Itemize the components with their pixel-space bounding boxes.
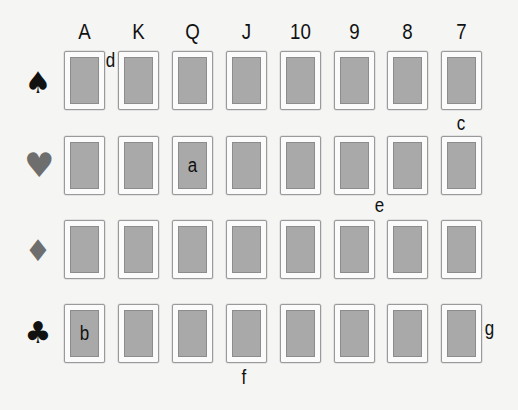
card-hearts-K[interactable] (118, 136, 159, 195)
card-hearts-J[interactable] (226, 136, 267, 195)
card-diamonds-A[interactable] (64, 220, 105, 279)
card-spades-A[interactable] (64, 51, 105, 110)
card-back (340, 57, 369, 104)
card-spades-10[interactable] (280, 51, 321, 110)
card-back (286, 57, 315, 104)
marker-e: e (375, 195, 384, 215)
card-back (393, 57, 422, 104)
column-header-eight: 8 (390, 18, 425, 46)
card-diamonds-7[interactable] (441, 220, 482, 279)
card-back (286, 142, 315, 189)
card-spades-K[interactable] (118, 51, 159, 110)
card-spades-7[interactable] (441, 51, 482, 110)
card-back (70, 57, 99, 104)
card-back (340, 142, 369, 189)
card-back (178, 310, 207, 357)
card-back (286, 226, 315, 273)
card-back (124, 310, 153, 357)
diamond-icon: ♦ (24, 236, 52, 266)
card-hearts-Q[interactable]: a (172, 136, 213, 195)
card-clubs-10[interactable] (280, 304, 321, 363)
card-back (124, 57, 153, 104)
card-clubs-8[interactable] (387, 304, 428, 363)
column-header-ten: 10 (283, 18, 318, 46)
card-diamonds-10[interactable] (280, 220, 321, 279)
card-back (447, 310, 476, 357)
card-back (232, 57, 261, 104)
marker-g: g (485, 318, 494, 338)
card-spades-8[interactable] (387, 51, 428, 110)
card-back (178, 57, 207, 104)
card-back (447, 57, 476, 104)
card-back (393, 310, 422, 357)
card-back (447, 142, 476, 189)
column-header-seven: 7 (444, 18, 479, 46)
card-clubs-7[interactable] (441, 304, 482, 363)
marker-f: f (241, 367, 246, 387)
heart-icon: ♥ (24, 150, 52, 180)
card-back: b (70, 310, 99, 357)
column-header-queen: Q (175, 18, 210, 46)
card-hearts-8[interactable] (387, 136, 428, 195)
card-hearts-10[interactable] (280, 136, 321, 195)
card-back (232, 142, 261, 189)
card-back (232, 310, 261, 357)
card-back (124, 142, 153, 189)
card-label-b: b (80, 322, 89, 345)
card-back (340, 226, 369, 273)
card-hearts-9[interactable] (334, 136, 375, 195)
spade-icon: ♠ (24, 68, 52, 98)
card-clubs-A[interactable]: b (64, 304, 105, 363)
card-clubs-J[interactable] (226, 304, 267, 363)
card-clubs-K[interactable] (118, 304, 159, 363)
card-hearts-7[interactable] (441, 136, 482, 195)
column-header-jack: J (229, 18, 264, 46)
column-header-king: K (121, 18, 156, 46)
card-hearts-A[interactable] (64, 136, 105, 195)
card-back (124, 226, 153, 273)
card-diamonds-9[interactable] (334, 220, 375, 279)
card-diamonds-8[interactable] (387, 220, 428, 279)
card-back (393, 226, 422, 273)
club-icon: ♣ (24, 318, 52, 348)
card-back (232, 226, 261, 273)
card-clubs-9[interactable] (334, 304, 375, 363)
card-back (70, 226, 99, 273)
card-back (286, 310, 315, 357)
card-back (70, 142, 99, 189)
card-back (178, 226, 207, 273)
column-header-ace: A (67, 18, 102, 46)
card-label-a: a (188, 154, 197, 177)
card-back (447, 226, 476, 273)
card-diamonds-Q[interactable] (172, 220, 213, 279)
card-back (393, 142, 422, 189)
card-spades-J[interactable] (226, 51, 267, 110)
card-clubs-Q[interactable] (172, 304, 213, 363)
card-spades-9[interactable] (334, 51, 375, 110)
card-diamonds-J[interactable] (226, 220, 267, 279)
column-header-nine: 9 (337, 18, 372, 46)
card-diamonds-K[interactable] (118, 220, 159, 279)
card-back: a (178, 142, 207, 189)
card-spades-Q[interactable] (172, 51, 213, 110)
marker-c: c (457, 113, 466, 133)
marker-d: d (106, 50, 115, 70)
card-back (340, 310, 369, 357)
